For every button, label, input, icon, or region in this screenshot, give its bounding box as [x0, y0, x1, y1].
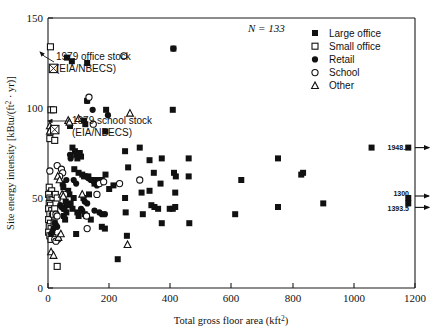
data-point	[103, 107, 109, 113]
legend-label: Retail	[329, 54, 355, 65]
annotation-text-line2: (EIA/NBECS)	[72, 127, 132, 138]
data-point	[116, 181, 122, 187]
data-point	[186, 220, 192, 226]
data-point	[63, 177, 69, 183]
y-axis-title: Site energy intensity [kBtu/(ft2 · yr)]	[4, 76, 18, 230]
offscale-value: 1300	[393, 190, 409, 197]
offscale-value: 1948.2	[388, 144, 410, 151]
data-point	[60, 206, 66, 212]
data-point	[102, 211, 108, 217]
legend-label: Small office	[329, 41, 381, 52]
offscale-label-1948.2: 1948.2	[388, 144, 429, 151]
legend-label: Other	[329, 80, 355, 91]
data-point	[151, 170, 157, 176]
x-axis-ticks	[48, 283, 415, 288]
data-point	[159, 155, 165, 161]
data-point	[147, 157, 153, 163]
data-point	[140, 211, 146, 217]
data-point	[76, 213, 82, 219]
data-point	[158, 181, 164, 187]
annotation-leader	[40, 52, 54, 62]
data-point	[102, 226, 108, 232]
y-axis-title-b: · yr)]	[5, 76, 17, 101]
data-point	[83, 213, 89, 219]
x-axis-tick-labels: 0 200 400 600 800 1000 1200	[45, 292, 426, 304]
legend-item-school: School	[312, 67, 360, 78]
data-point	[84, 226, 90, 232]
data-point	[173, 173, 179, 179]
legend: Large officeSmall officeRetailSchoolOthe…	[312, 28, 382, 92]
legend-item-small-office: Small office	[312, 41, 381, 52]
y-tick-label: 150	[27, 12, 44, 24]
data-point	[115, 256, 121, 262]
data-point	[232, 211, 238, 217]
data-point	[122, 148, 128, 154]
y-axis-tick-labels: 0 50 100 150	[27, 12, 44, 294]
data-point	[68, 155, 74, 161]
x-tick-label: 800	[285, 292, 302, 304]
figure-scatter-plot: 0 50 100 150 0 200 400 600 800 1000 1200…	[0, 0, 434, 334]
legend-item-large-office: Large office	[312, 28, 382, 39]
data-point	[170, 107, 176, 113]
data-point	[62, 217, 68, 223]
data-point	[73, 231, 79, 237]
legend-item-other: Other	[312, 80, 355, 91]
data-point	[78, 154, 84, 160]
data-point	[54, 263, 60, 269]
data-point	[147, 188, 153, 194]
y-axis-title-a: Site energy intensity [kBtu/(ft	[5, 104, 17, 230]
legend-marker-open-circle	[312, 70, 318, 76]
legend-item-retail: Retail	[312, 54, 355, 65]
annotation-1: 1979 office stock(EIA/NBECS)	[40, 51, 132, 74]
data-point	[139, 190, 145, 196]
data-point	[110, 182, 116, 188]
x-tick-label: 600	[223, 292, 240, 304]
annotations-layer: 1979 office stock(EIA/NBECS)1979 school …	[40, 51, 153, 138]
data-point	[137, 145, 143, 151]
data-point	[51, 107, 57, 113]
data-point	[60, 184, 66, 190]
data-point	[159, 220, 165, 226]
x-tick-label: 400	[162, 292, 179, 304]
data-point	[186, 173, 192, 179]
data-point	[86, 94, 92, 100]
data-point	[155, 206, 161, 212]
data-point	[94, 191, 100, 197]
x-tick-label: 1000	[343, 292, 366, 304]
data-point	[238, 177, 244, 183]
legend-marker-open-square	[312, 43, 318, 49]
annotation-text-line2: (EIA/NBECS)	[56, 63, 116, 74]
x-tick-label: 1200	[404, 292, 427, 304]
data-point	[47, 168, 53, 174]
x-axis-title: Total gross floor area (kft2)	[174, 314, 289, 328]
data-point	[101, 179, 107, 185]
data-point	[86, 191, 92, 197]
sample-size-label: N = 133	[247, 22, 285, 34]
data-point	[172, 190, 178, 196]
annotation-text-line1: 1979 school stock	[72, 115, 153, 126]
data-point	[125, 164, 131, 170]
data-point	[320, 200, 326, 206]
data-point	[275, 155, 281, 161]
x-tick-label: 200	[101, 292, 118, 304]
y-tick-label: 50	[32, 192, 44, 204]
data-point	[186, 155, 192, 161]
data-point	[300, 170, 306, 176]
data-point	[275, 204, 281, 210]
data-point	[170, 46, 176, 52]
legend-label: School	[329, 67, 360, 78]
data-point	[90, 107, 96, 113]
data-point	[52, 137, 58, 143]
data-point	[47, 44, 53, 50]
y-tick-label: 0	[38, 282, 44, 294]
data-point	[102, 172, 108, 178]
offscale-label-1393.5: 1393.5	[388, 205, 429, 212]
data-point	[124, 241, 131, 248]
x-axis-title-main: Total gross floor area (kft	[174, 315, 281, 327]
data-point	[137, 177, 143, 183]
y-tick-label: 100	[27, 102, 44, 114]
data-point	[73, 181, 79, 187]
data-point	[79, 208, 85, 214]
data-point	[79, 191, 86, 198]
offscale-value: 1393.5	[388, 205, 410, 212]
